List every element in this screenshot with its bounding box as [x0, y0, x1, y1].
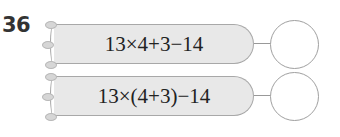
connector-line	[254, 95, 270, 96]
expression: 13×(4+3)−14	[44, 76, 254, 116]
connector-line	[254, 43, 270, 44]
answer-circle[interactable]	[270, 20, 319, 69]
problem-row-2: 13×(4+3)−14	[44, 72, 324, 120]
answer-circle[interactable]	[270, 72, 319, 121]
expression: 13×4+3−14	[44, 24, 254, 64]
problem-row-1: 13×4+3−14	[44, 20, 324, 68]
question-number: 36	[2, 13, 30, 37]
